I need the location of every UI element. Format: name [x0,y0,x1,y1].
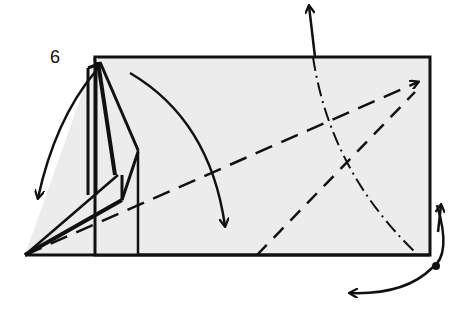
paper-rectangle [95,57,430,255]
origami-diagram [0,0,454,322]
arrow-pull-up [309,6,315,57]
pivot-dot [432,262,440,270]
